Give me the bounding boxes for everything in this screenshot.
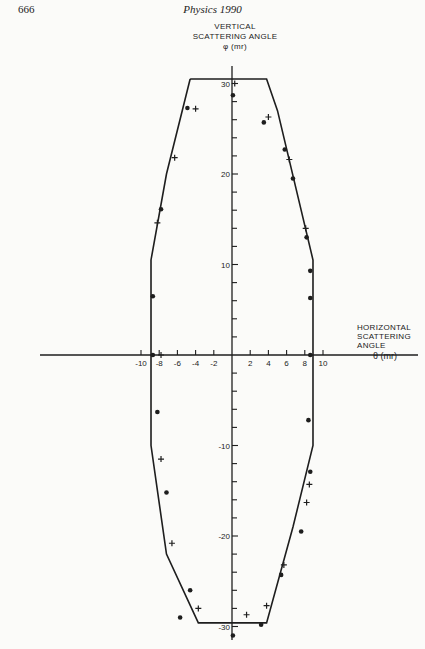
data-cross [193, 106, 199, 112]
x-tick-label: -4 [192, 359, 200, 368]
data-dot [231, 93, 236, 98]
data-cross [195, 605, 201, 611]
data-cross [264, 603, 270, 609]
x-tick-label: -8 [156, 359, 164, 368]
data-dot [231, 633, 236, 638]
data-dot [308, 269, 313, 274]
x-tick-label: -10 [135, 359, 147, 368]
data-dot [188, 588, 193, 593]
data-dot [282, 147, 287, 152]
y-tick-label: 10 [221, 261, 230, 270]
x-tick-label: 6 [284, 359, 289, 368]
data-cross [303, 225, 309, 231]
data-cross [169, 540, 175, 546]
data-dot [155, 410, 160, 415]
data-dot [151, 294, 156, 299]
data-dot [291, 176, 296, 181]
y-tick-label: -30 [218, 623, 230, 632]
scatter-plot: -10-8-6-4-2246810302010-10-20-30 [0, 0, 425, 649]
data-dot [159, 207, 164, 212]
data-dot [306, 418, 311, 423]
data-dot [304, 235, 309, 240]
data-dot [308, 353, 313, 358]
x-tick-label: 4 [266, 359, 271, 368]
data-cross [265, 114, 271, 120]
y-tick-label: 30 [221, 80, 230, 89]
x-tick-label: -6 [174, 359, 182, 368]
x-tick-label: 10 [319, 359, 328, 368]
y-tick-label: -10 [218, 442, 230, 451]
data-dot [308, 296, 313, 301]
data-cross [172, 155, 178, 161]
data-dot [308, 469, 313, 474]
data-cross [304, 500, 310, 506]
data-dot [151, 353, 156, 358]
data-cross [244, 612, 250, 618]
x-tick-label: -2 [210, 359, 218, 368]
data-dot [279, 573, 284, 578]
data-dot [164, 490, 169, 495]
data-cross [286, 157, 292, 163]
x-tick-label: 2 [248, 359, 253, 368]
data-dot [185, 106, 190, 111]
data-dot [299, 529, 304, 534]
y-tick-label: -20 [218, 532, 230, 541]
data-dot [259, 622, 264, 627]
y-tick-label: 20 [221, 170, 230, 179]
data-dot [262, 120, 267, 125]
data-cross [154, 220, 160, 226]
data-dot [178, 615, 183, 620]
data-cross [306, 481, 312, 487]
x-tick-label: 8 [303, 359, 308, 368]
data-cross [158, 456, 164, 462]
